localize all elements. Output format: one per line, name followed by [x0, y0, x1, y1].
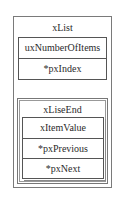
- xlist-title: xList: [14, 22, 111, 34]
- xlist-end-title: xLiseEnd: [20, 104, 105, 116]
- xlist-end-fields-box: xItemValue *pxPrevious *pxNext: [22, 117, 104, 179]
- field-x-item-value: xItemValue: [23, 118, 103, 139]
- xlist-fields-box: uxNumberOfItems *pxIndex: [18, 37, 107, 80]
- field-px-next: *pxNext: [23, 158, 103, 180]
- field-px-previous: *pxPrevious: [23, 138, 103, 160]
- field-ux-number-of-items: uxNumberOfItems: [19, 38, 106, 59]
- field-px-index: *pxIndex: [19, 58, 106, 80]
